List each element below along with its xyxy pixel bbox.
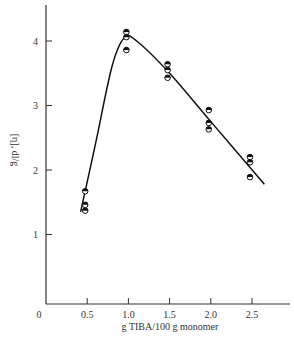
data-point	[124, 47, 130, 53]
y-tick-label: 1	[33, 229, 38, 240]
y-tick-label: 3	[33, 100, 38, 111]
data-point	[82, 202, 88, 208]
x-tick-label: 2.0	[205, 309, 218, 320]
data-point	[247, 159, 253, 165]
data-points	[82, 29, 252, 213]
y-axis-label: [η], dl/g	[10, 134, 21, 166]
data-point	[206, 120, 212, 126]
x-tick-label: 1.0	[122, 309, 135, 320]
data-point	[247, 174, 253, 180]
x-tick-label: 2.5	[246, 309, 259, 320]
data-point	[82, 188, 88, 194]
data-point	[165, 61, 171, 67]
data-point	[206, 127, 212, 133]
x-axis-label: g TIBA/100 g monomer	[122, 321, 219, 332]
chart: 00.51.01.52.02.51234 g TIBA/100 g monome…	[0, 0, 294, 341]
data-point	[165, 75, 171, 81]
y-tick-label: 4	[33, 36, 38, 47]
x-tick-label: 0.5	[81, 309, 94, 320]
fitted-curve	[81, 35, 265, 212]
x-tick-label: 1.5	[163, 309, 176, 320]
y-tick-label: 2	[33, 165, 38, 176]
data-point	[82, 208, 88, 214]
data-point	[124, 34, 130, 40]
x-tick-label: 0	[37, 309, 42, 320]
data-point	[165, 67, 171, 73]
data-point	[206, 107, 212, 113]
